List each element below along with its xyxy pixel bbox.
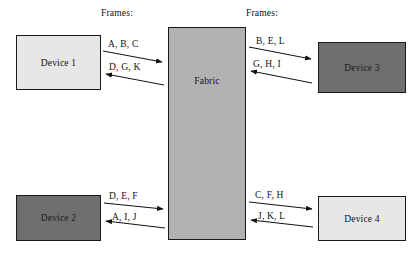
arrow-device2-to-fabric xyxy=(104,203,163,209)
node-device-1: Device 1 xyxy=(16,35,101,90)
flow-label-fabric-to-device4: C, F, H xyxy=(255,190,284,200)
node-device-1-label: Device 1 xyxy=(41,58,77,68)
node-device-2: Device 2 xyxy=(16,195,101,241)
node-device-4-label: Device 4 xyxy=(344,214,380,224)
arrow-device4-to-fabric xyxy=(251,220,313,227)
flow-label-fabric-to-device2: A, I, J xyxy=(112,212,137,222)
arrow-device3-to-fabric xyxy=(251,71,312,83)
diagram-canvas: Frames: Frames: Device 1 Device 2 Fabric… xyxy=(0,0,419,256)
frames-label-left: Frames: xyxy=(101,8,133,18)
flow-label-device3-to-fabric: G, H, I xyxy=(253,59,281,69)
node-device-2-label: Device 2 xyxy=(41,213,77,223)
flow-label-device2-to-fabric: D, E, F xyxy=(109,191,138,201)
arrow-fabric-to-device2 xyxy=(106,221,165,228)
arrow-fabric-to-device3 xyxy=(249,47,311,59)
node-fabric-label: Fabric xyxy=(194,76,219,86)
arrow-device1-to-fabric xyxy=(103,51,162,62)
arrow-fabric-to-device4 xyxy=(249,202,312,209)
arrow-fabric-to-device1 xyxy=(106,74,164,85)
node-device-4: Device 4 xyxy=(318,196,406,241)
node-fabric: Fabric xyxy=(168,27,246,240)
node-device-3-label: Device 3 xyxy=(344,63,380,73)
flow-label-fabric-to-device3: B, E, L xyxy=(256,36,285,46)
flow-label-device1-to-fabric: A, B, C xyxy=(108,39,138,49)
flow-label-device4-to-fabric: J, K, L xyxy=(258,211,285,221)
frames-label-right: Frames: xyxy=(246,8,278,18)
flow-label-fabric-to-device1: D, G, K xyxy=(109,62,140,72)
node-device-3: Device 3 xyxy=(318,42,406,93)
